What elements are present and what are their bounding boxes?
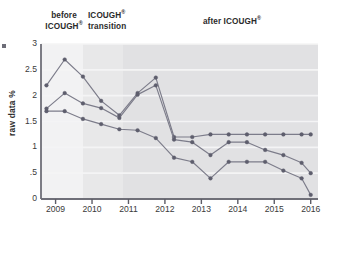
data-point (300, 133, 304, 137)
data-point (99, 106, 103, 110)
data-point (190, 140, 194, 144)
data-point (263, 160, 267, 164)
data-point (227, 160, 231, 164)
data-point (227, 140, 231, 144)
data-point (227, 133, 231, 137)
x-tick-label-2015: 2015 (257, 205, 291, 214)
registered-icon: ® (257, 15, 261, 21)
phase-transition-line1: ICOUGH (88, 11, 121, 20)
data-point (245, 140, 249, 144)
phase-label-group: before ICOUGH® ICOUGH® transition after … (0, 0, 340, 42)
y-tick-label-2.5: 2.5 (9, 65, 37, 74)
data-point (263, 133, 267, 137)
registered-icon: ® (121, 9, 125, 15)
phase-label-after-icough: after ICOUGH® (176, 17, 288, 28)
data-point (154, 83, 158, 87)
x-tick-label-2012: 2012 (148, 205, 182, 214)
x-tick-label-2011: 2011 (111, 205, 145, 214)
data-point (263, 148, 267, 152)
figure-container: before ICOUGH® ICOUGH® transition after … (0, 0, 340, 259)
phase-transition-line2: transition (88, 22, 126, 31)
data-point (136, 93, 140, 97)
data-point (190, 135, 194, 139)
registered-icon: ® (79, 20, 83, 26)
data-point (99, 99, 103, 103)
y-tick-label-.5: .5 (9, 168, 37, 177)
y-tick-label-1.5: 1.5 (9, 117, 37, 126)
x-tick-label-2013: 2013 (184, 205, 218, 214)
data-point (136, 128, 140, 132)
data-point (172, 156, 176, 160)
data-point (118, 116, 122, 120)
y-tick-label-2: 2 (9, 91, 37, 100)
data-point (282, 169, 286, 173)
x-tick-label-2010: 2010 (75, 205, 109, 214)
data-point (154, 76, 158, 80)
x-tick-label-2016: 2016 (294, 205, 328, 214)
data-point (300, 161, 304, 165)
scan-artifact-mark (2, 44, 6, 48)
data-point (309, 171, 313, 175)
y-tick-label-3: 3 (9, 39, 37, 48)
y-tick-label-1: 1 (9, 142, 37, 151)
phase-before-line1: before (51, 11, 77, 20)
data-point (45, 109, 49, 113)
data-point (300, 176, 304, 180)
data-point (245, 133, 249, 137)
data-point (209, 176, 213, 180)
data-point (63, 109, 67, 113)
data-point (282, 153, 286, 157)
data-point (209, 133, 213, 137)
data-point (172, 138, 176, 142)
data-point (190, 160, 194, 164)
phase-label-before-icough: before ICOUGH® (40, 11, 88, 32)
data-point (282, 133, 286, 137)
x-tick-label-2014: 2014 (221, 205, 255, 214)
phase-after-line1: after ICOUGH (203, 17, 257, 26)
data-point (309, 193, 313, 197)
x-tick-label-2009: 2009 (39, 205, 73, 214)
data-point (309, 133, 313, 137)
data-point (99, 122, 103, 126)
data-point (63, 58, 67, 62)
y-axis-title: raw data % (7, 73, 17, 153)
data-point (81, 75, 85, 79)
phase-before-line2: ICOUGH (45, 22, 78, 31)
y-tick-label-0: 0 (9, 194, 37, 203)
data-point (118, 127, 122, 131)
data-point (81, 102, 85, 106)
data-point (81, 117, 85, 121)
phase-label-icough-transition: ICOUGH® transition (88, 11, 148, 32)
data-point (45, 83, 49, 87)
data-point (245, 160, 249, 164)
data-point (154, 136, 158, 140)
data-point (63, 91, 67, 95)
data-point (209, 153, 213, 157)
